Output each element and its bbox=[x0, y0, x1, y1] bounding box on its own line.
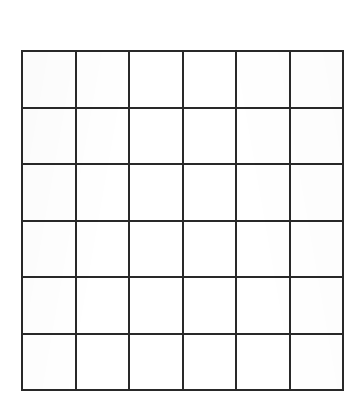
blank-grid bbox=[21, 50, 344, 391]
grid-cell[interactable] bbox=[22, 108, 76, 165]
grid-row bbox=[22, 108, 343, 165]
grid-cell[interactable] bbox=[129, 334, 183, 391]
grid-row bbox=[22, 221, 343, 278]
grid-cell[interactable] bbox=[129, 277, 183, 334]
page-canvas bbox=[0, 0, 364, 408]
grid-cell[interactable] bbox=[129, 51, 183, 108]
grid-cell[interactable] bbox=[76, 108, 130, 165]
grid-row bbox=[22, 334, 343, 391]
grid-cell[interactable] bbox=[290, 334, 344, 391]
grid-cell[interactable] bbox=[22, 277, 76, 334]
grid-cell[interactable] bbox=[76, 221, 130, 278]
grid-cell[interactable] bbox=[76, 334, 130, 391]
grid-cell[interactable] bbox=[236, 221, 290, 278]
grid-cell[interactable] bbox=[22, 51, 76, 108]
grid-row bbox=[22, 277, 343, 334]
grid-cell[interactable] bbox=[76, 51, 130, 108]
grid-cell[interactable] bbox=[129, 108, 183, 165]
grid-cell[interactable] bbox=[183, 164, 237, 221]
grid-cell[interactable] bbox=[236, 164, 290, 221]
grid-cell[interactable] bbox=[290, 277, 344, 334]
grid-cell[interactable] bbox=[22, 221, 76, 278]
grid-cell[interactable] bbox=[183, 277, 237, 334]
grid-cell[interactable] bbox=[290, 108, 344, 165]
grid-cell[interactable] bbox=[290, 221, 344, 278]
grid-cell[interactable] bbox=[183, 334, 237, 391]
grid-cell[interactable] bbox=[236, 108, 290, 165]
grid-cell[interactable] bbox=[236, 334, 290, 391]
grid-cell[interactable] bbox=[183, 221, 237, 278]
grid-cell[interactable] bbox=[76, 277, 130, 334]
grid-container bbox=[21, 50, 344, 391]
grid-cell[interactable] bbox=[129, 164, 183, 221]
grid-cell[interactable] bbox=[290, 51, 344, 108]
grid-cell[interactable] bbox=[22, 164, 76, 221]
grid-cell[interactable] bbox=[236, 51, 290, 108]
grid-cell[interactable] bbox=[290, 164, 344, 221]
grid-cell[interactable] bbox=[129, 221, 183, 278]
grid-row bbox=[22, 51, 343, 108]
grid-body bbox=[22, 51, 343, 390]
grid-cell[interactable] bbox=[22, 334, 76, 391]
grid-cell[interactable] bbox=[183, 51, 237, 108]
grid-row bbox=[22, 164, 343, 221]
grid-cell[interactable] bbox=[183, 108, 237, 165]
grid-cell[interactable] bbox=[236, 277, 290, 334]
grid-cell[interactable] bbox=[76, 164, 130, 221]
